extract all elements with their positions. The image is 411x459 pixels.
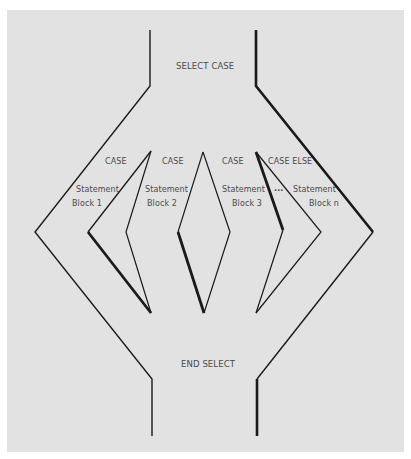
block-1-line1: Statement <box>76 185 119 195</box>
block-1-lower-edge <box>88 232 151 313</box>
block-3-right <box>203 152 230 313</box>
select-case-label: SELECT CASE <box>176 61 234 71</box>
case-1-header: CASE <box>105 157 127 167</box>
block-2-line1: Statement <box>145 185 188 195</box>
end-select-label: END SELECT <box>181 359 235 369</box>
block-n-line1: Statement <box>293 185 336 195</box>
block-3-line1: Statement <box>222 185 265 195</box>
block-1-line2: Block 1 <box>72 199 102 209</box>
ellipsis-label: ... <box>274 184 283 194</box>
case-else-header: CASE ELSE <box>268 157 312 167</box>
block-3-line2: Block 3 <box>232 199 262 209</box>
block-2-line2: Block 2 <box>147 199 177 209</box>
case-2-header: CASE <box>162 157 184 167</box>
block-3-lower-left <box>178 232 204 313</box>
block-n-left-lower <box>256 230 283 313</box>
outer-left-path <box>35 30 152 436</box>
outer-right-path-bottom <box>257 232 373 379</box>
block-n-line2: Block n <box>309 199 339 209</box>
case-3-header: CASE <box>222 157 244 167</box>
block-2-edges <box>126 151 151 313</box>
